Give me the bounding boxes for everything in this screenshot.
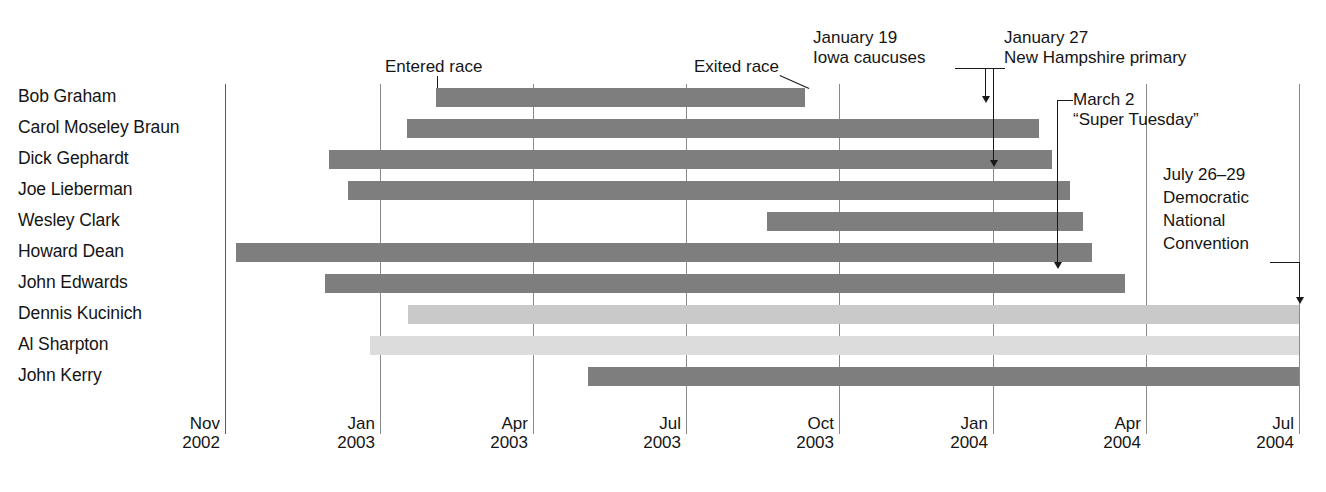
tick-year: 2004 — [1041, 433, 1141, 452]
tick-month: Jul — [1194, 414, 1294, 433]
tick-oct-2003: Oct 2003 — [734, 414, 834, 452]
arrow-new-hampshire — [990, 160, 998, 167]
tick-nov-2002: Nov 2002 — [120, 414, 220, 452]
gridline-jul-2004 — [1299, 84, 1300, 434]
tick-jul-2003: Jul 2003 — [581, 414, 681, 452]
bar-al-sharpton — [370, 336, 1299, 355]
annotation-st-date: March 2 — [1073, 90, 1273, 110]
tick-year: 2004 — [1194, 433, 1294, 452]
annotation-iowa-date: January 19 — [813, 28, 993, 48]
arrow-super-tuesday — [1054, 262, 1062, 269]
bar-wesley-clark — [767, 212, 1083, 231]
bar-bob-graham — [436, 88, 805, 107]
annotation-super-tuesday: March 2 “Super Tuesday” — [1073, 90, 1273, 130]
annotation-iowa-event: Iowa caucuses — [813, 48, 993, 68]
tick-year: 2003 — [428, 433, 528, 452]
tick-month: Nov — [120, 414, 220, 433]
tick-jan-2003: Jan 2003 — [275, 414, 375, 452]
tick-month: Apr — [1041, 414, 1141, 433]
tick-jan-2004: Jan 2004 — [888, 414, 988, 452]
tick-year: 2003 — [734, 433, 834, 452]
leader-super-tuesday-vertical — [1057, 100, 1058, 263]
annotation-dnc-line4: Convention — [1163, 232, 1303, 255]
tick-month: Jan — [888, 414, 988, 433]
annotation-dnc-line3: National — [1163, 209, 1303, 232]
tick-month: Jan — [275, 414, 375, 433]
annotation-dnc-date: July 26–29 — [1163, 163, 1303, 186]
annotation-exited-race: Exited race — [694, 57, 779, 77]
bar-john-edwards — [325, 274, 1125, 293]
leader-nh-elbow — [993, 68, 1005, 69]
arrow-iowa — [982, 96, 990, 103]
timeline-chart: Bob Graham Carol Moseley Braun Dick Geph… — [0, 0, 1326, 492]
tick-apr-2003: Apr 2003 — [428, 414, 528, 452]
leader-iowa-horizontal — [955, 68, 985, 69]
leader-dnc-vertical — [1299, 262, 1300, 298]
leader-nh-drop — [993, 68, 994, 161]
leader-dnc-horizontal — [1270, 262, 1300, 263]
arrow-dnc — [1296, 297, 1304, 304]
bar-joe-lieberman — [348, 181, 1070, 200]
annotation-entered-race: Entered race — [385, 57, 482, 77]
tick-year: 2003 — [581, 433, 681, 452]
bar-howard-dean — [236, 243, 1092, 262]
tick-month: Oct — [734, 414, 834, 433]
annotation-nh-event: New Hampshire primary — [1004, 48, 1244, 68]
bar-dick-gephardt — [329, 150, 1052, 169]
tick-month: Jul — [581, 414, 681, 433]
leader-super-tuesday-horizontal — [1057, 100, 1073, 101]
tick-year: 2003 — [275, 433, 375, 452]
tick-year: 2004 — [888, 433, 988, 452]
tick-apr-2004: Apr 2004 — [1041, 414, 1141, 452]
bar-john-kerry — [588, 367, 1299, 386]
tick-jul-2004: Jul 2004 — [1194, 414, 1294, 452]
bar-carol-moseley-braun — [407, 119, 1039, 138]
tick-year: 2002 — [120, 433, 220, 452]
annotation-dnc: July 26–29 Democratic National Conventio… — [1163, 163, 1303, 255]
tick-month: Apr — [428, 414, 528, 433]
annotation-new-hampshire: January 27 New Hampshire primary — [1004, 28, 1244, 68]
annotation-nh-date: January 27 — [1004, 28, 1244, 48]
axis-line-left — [225, 84, 226, 434]
bar-dennis-kucinich — [408, 305, 1299, 324]
annotation-st-event: “Super Tuesday” — [1073, 110, 1273, 130]
leader-entered-race — [437, 76, 438, 88]
leader-iowa-vertical — [985, 68, 986, 97]
annotation-dnc-line2: Democratic — [1163, 186, 1303, 209]
annotation-iowa-caucuses: January 19 Iowa caucuses — [813, 28, 993, 68]
